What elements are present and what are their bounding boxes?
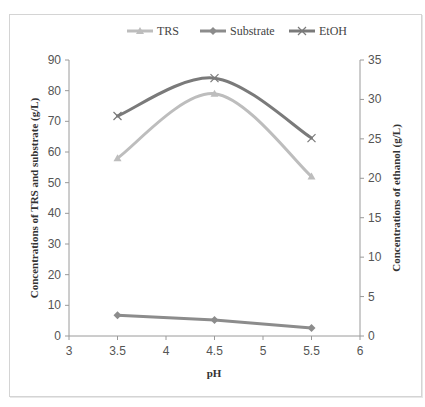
x-tick-label: 5 bbox=[260, 344, 267, 358]
x-marker bbox=[308, 134, 316, 142]
y2-tick-label: 10 bbox=[368, 250, 382, 264]
series-substrate bbox=[114, 311, 316, 332]
y-tick-label: 70 bbox=[48, 114, 62, 128]
series-group bbox=[114, 74, 316, 332]
y-axis-title: Concentrations of TRS and substrate (g/L… bbox=[28, 97, 41, 298]
y2-tick-label: 0 bbox=[368, 329, 375, 343]
line-chart: TRSSubstrateEtOH 01020304050607080900510… bbox=[0, 0, 425, 407]
y-tick-label: 50 bbox=[48, 176, 62, 190]
x-tick-label: 3.5 bbox=[109, 344, 126, 358]
y2-tick-label: 25 bbox=[368, 132, 382, 146]
legend-item-trs: TRS bbox=[127, 24, 179, 38]
axes: 01020304050607080900510152025303533.544.… bbox=[48, 53, 382, 358]
y-tick-label: 30 bbox=[48, 237, 62, 251]
legend: TRSSubstrateEtOH bbox=[127, 24, 347, 38]
y2-tick-label: 5 bbox=[368, 290, 375, 304]
x-tick-label: 4 bbox=[163, 344, 170, 358]
diamond-marker bbox=[308, 324, 316, 332]
diamond-marker bbox=[114, 311, 122, 319]
x-tick-label: 5.5 bbox=[303, 344, 320, 358]
y-tick-label: 60 bbox=[48, 145, 62, 159]
legend-item-etoh: EtOH bbox=[289, 24, 347, 38]
y2-tick-label: 15 bbox=[368, 211, 382, 225]
x-tick-label: 6 bbox=[357, 344, 364, 358]
y-tick-label: 90 bbox=[48, 53, 62, 67]
diamond-marker bbox=[209, 27, 217, 35]
x-tick-label: 4.5 bbox=[206, 344, 223, 358]
y-tick-label: 10 bbox=[48, 298, 62, 312]
y-tick-label: 40 bbox=[48, 206, 62, 220]
y-tick-label: 20 bbox=[48, 268, 62, 282]
y2-tick-label: 30 bbox=[368, 92, 382, 106]
series-line bbox=[118, 78, 312, 138]
legend-item-substrate: Substrate bbox=[200, 24, 275, 38]
y2-tick-label: 35 bbox=[368, 53, 382, 67]
legend-label: TRS bbox=[157, 24, 179, 38]
legend-label: Substrate bbox=[230, 24, 275, 38]
y2-tick-label: 20 bbox=[368, 171, 382, 185]
y-tick-label: 0 bbox=[54, 329, 61, 343]
series-etoh bbox=[114, 74, 316, 142]
y-tick-label: 80 bbox=[48, 84, 62, 98]
diamond-marker bbox=[211, 316, 219, 324]
x-tick-label: 3 bbox=[66, 344, 73, 358]
x-axis-title: pH bbox=[207, 367, 222, 379]
y2-axis-title: Concentrations of ethanol (g/L) bbox=[390, 124, 403, 272]
series-line bbox=[118, 94, 312, 177]
legend-label: EtOH bbox=[319, 24, 347, 38]
